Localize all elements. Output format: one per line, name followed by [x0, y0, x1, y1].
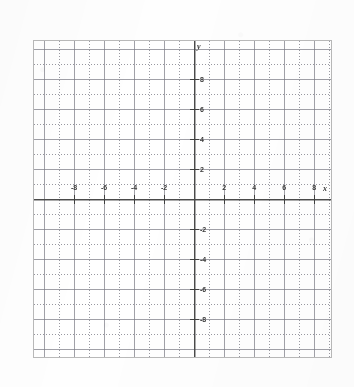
gridline-minor-horizontal: [34, 274, 331, 275]
gridline-minor-horizontal: [34, 64, 331, 65]
scanned-page: -8-6-4-224688642-2-4-6-8 x y: [0, 0, 354, 387]
y-tick-label: 8: [200, 76, 204, 83]
x-tick-label: -8: [71, 184, 77, 191]
y-tick-label: -4: [200, 256, 206, 263]
gridline-major-horizontal: [34, 319, 331, 320]
y-axis-tick: [190, 319, 199, 320]
y-tick-label: -6: [200, 286, 206, 293]
y-tick-label: -2: [200, 226, 206, 233]
gridline-minor-horizontal: [34, 214, 331, 215]
y-axis-line: [194, 41, 195, 357]
y-tick-label: 4: [200, 136, 204, 143]
y-axis-tick: [190, 169, 199, 170]
y-axis-tick: [190, 109, 199, 110]
x-tick-label: -6: [101, 184, 107, 191]
y-tick-label: 6: [200, 106, 204, 113]
y-axis-tick: [190, 79, 199, 80]
x-axis-tick: [104, 195, 105, 204]
x-axis-tick: [134, 195, 135, 204]
gridline-minor-horizontal: [34, 124, 331, 125]
x-tick-label: -4: [131, 184, 137, 191]
y-axis-tick: [190, 259, 199, 260]
gridline-major-horizontal: [34, 139, 331, 140]
y-axis-tick: [190, 229, 199, 230]
x-tick-label: 2: [222, 184, 226, 191]
gridline-major-horizontal: [34, 49, 331, 50]
x-tick-label: 8: [312, 184, 316, 191]
gridline-minor-horizontal: [34, 154, 331, 155]
x-axis-tick: [74, 195, 75, 204]
gridline-major-horizontal: [34, 259, 331, 260]
x-axis-tick: [224, 195, 225, 204]
y-tick-label: 2: [200, 166, 204, 173]
x-axis-line: [34, 199, 331, 200]
gridline-major-horizontal: [34, 169, 331, 170]
gridline-minor-horizontal: [34, 94, 331, 95]
gridline-major-horizontal: [34, 229, 331, 230]
y-axis-tick: [190, 289, 199, 290]
x-axis-label: x: [323, 185, 327, 193]
gridline-major-horizontal: [34, 289, 331, 290]
gridline-minor-horizontal: [34, 334, 331, 335]
gridline-minor-horizontal: [34, 304, 331, 305]
y-axis-label: y: [197, 43, 201, 51]
coordinate-grid-plate: -8-6-4-224688642-2-4-6-8 x y: [33, 40, 332, 358]
x-tick-label: 6: [282, 184, 286, 191]
x-tick-label: 4: [252, 184, 256, 191]
y-axis-tick: [190, 139, 199, 140]
y-tick-label: -8: [200, 316, 206, 323]
x-axis-tick: [314, 195, 315, 204]
x-axis-tick: [284, 195, 285, 204]
gridline-minor-horizontal: [34, 244, 331, 245]
x-axis-tick: [254, 195, 255, 204]
gridline-minor-horizontal: [34, 184, 331, 185]
gridline-major-horizontal: [34, 349, 331, 350]
gridline-major-horizontal: [34, 109, 331, 110]
x-tick-label: -2: [161, 184, 167, 191]
gridline-major-horizontal: [34, 79, 331, 80]
x-axis-tick: [164, 195, 165, 204]
